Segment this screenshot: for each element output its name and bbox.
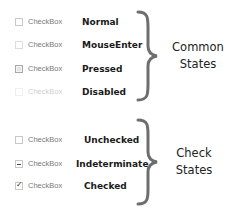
group-label-common-states: Common States xyxy=(165,39,231,73)
checkbox-normal[interactable] xyxy=(15,18,23,26)
checkbox-unchecked[interactable] xyxy=(15,136,23,144)
checkbox-label: CheckBox xyxy=(28,180,62,192)
group-title-line2: States xyxy=(165,56,231,73)
checkbox-label: CheckBox xyxy=(28,63,62,75)
checkbox-pressed[interactable] xyxy=(15,65,23,73)
checkbox-checked[interactable]: ✓ xyxy=(15,182,23,190)
state-label-checked: Checked xyxy=(84,180,127,192)
row-disabled: CheckBox Disabled xyxy=(0,86,140,100)
curly-brace-icon xyxy=(134,118,160,206)
checkbox-disabled xyxy=(15,88,23,96)
checkbox-label: CheckBox xyxy=(28,16,62,28)
checkbox-label: CheckBox xyxy=(28,158,62,170)
state-label-pressed: Pressed xyxy=(82,63,122,75)
state-label-normal: Normal xyxy=(82,16,119,28)
state-label-disabled: Disabled xyxy=(82,86,126,98)
checkbox-label: CheckBox xyxy=(28,134,62,146)
group-label-check-states: Check States xyxy=(161,145,227,179)
row-unchecked: CheckBox Unchecked xyxy=(0,134,140,148)
row-indeterminate: CheckBox Indeterminate xyxy=(0,158,140,172)
group-title-line1: Check xyxy=(161,145,227,162)
row-pressed: CheckBox Pressed xyxy=(0,63,140,77)
state-label-unchecked: Unchecked xyxy=(84,134,139,146)
group-title-line1: Common xyxy=(165,39,231,56)
row-mouseenter: CheckBox MouseEnter xyxy=(0,39,140,53)
checkbox-mouseenter[interactable] xyxy=(15,41,23,49)
checkbox-label: CheckBox xyxy=(28,86,62,98)
checkbox-indeterminate[interactable] xyxy=(15,160,23,168)
checkbox-label: CheckBox xyxy=(28,39,62,51)
group-title-line2: States xyxy=(161,162,227,179)
row-checked: ✓ CheckBox Checked xyxy=(0,180,140,194)
curly-brace-icon xyxy=(134,10,160,102)
checkmark-icon: ✓ xyxy=(16,180,23,190)
row-normal: CheckBox Normal xyxy=(0,16,140,30)
